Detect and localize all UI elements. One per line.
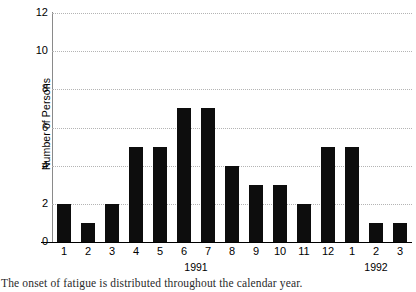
y-tick-label: 12 [22, 7, 48, 18]
gridline-0 [52, 242, 412, 243]
y-tick-label: 8 [22, 83, 48, 94]
bar [225, 166, 239, 242]
bar [345, 147, 359, 242]
bar [153, 147, 167, 242]
bar [201, 108, 215, 242]
x-tick-label: 10 [268, 246, 292, 257]
bar [273, 185, 287, 242]
bar [57, 204, 71, 242]
bar [177, 108, 191, 242]
x-axis-group-label: 1991 [166, 261, 226, 273]
x-tick-label: 4 [124, 246, 148, 257]
x-tick-label: 3 [100, 246, 124, 257]
y-tick-label: 10 [22, 45, 48, 56]
plot-area [52, 13, 412, 242]
figure-caption: The onset of fatigue is distributed thro… [1, 277, 303, 289]
bar [249, 185, 263, 242]
x-tick-label: 5 [148, 246, 172, 257]
y-tick-label: 4 [22, 160, 48, 171]
y-tick-label: 0 [22, 236, 48, 247]
x-tick-label: 9 [244, 246, 268, 257]
x-tick-label: 6 [172, 246, 196, 257]
x-tick-label: 1 [340, 246, 364, 257]
x-tick-label: 3 [388, 246, 412, 257]
x-tick-label: 2 [364, 246, 388, 257]
x-tick-label: 8 [220, 246, 244, 257]
x-axis-group-label: 1992 [346, 261, 406, 273]
bar [369, 223, 383, 242]
x-tick-label: 7 [196, 246, 220, 257]
bar [297, 204, 311, 242]
y-tick-label: 2 [22, 198, 48, 209]
figure: Number of Persons 024681012 123456789101… [0, 0, 416, 292]
bar [129, 147, 143, 242]
bar [81, 223, 95, 242]
bar-series [52, 13, 412, 242]
x-tick-label: 2 [76, 246, 100, 257]
x-tick-label: 12 [316, 246, 340, 257]
bar [321, 147, 335, 242]
y-tick-label: 6 [22, 122, 48, 133]
x-tick-label: 1 [52, 246, 76, 257]
bar [393, 223, 407, 242]
bar [105, 204, 119, 242]
x-tick-label: 11 [292, 246, 316, 257]
